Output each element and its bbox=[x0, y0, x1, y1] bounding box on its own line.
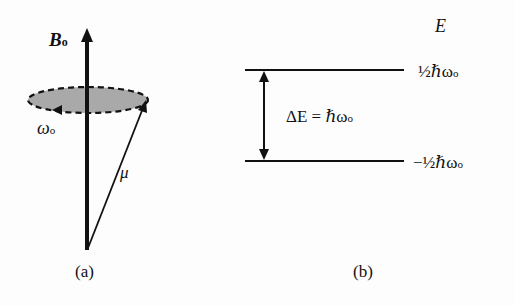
diagram-canvas: Bo ωo μ (a) E ½ℏωo −½ℏωo ΔE = ℏωo (b) bbox=[0, 0, 515, 306]
field-arrow-b0 bbox=[81, 28, 93, 250]
magnetic-moment-arrow bbox=[88, 100, 147, 248]
lower-level-label: −½ℏωo bbox=[413, 152, 463, 173]
magnetic-moment-label: μ bbox=[120, 163, 129, 183]
precession-frequency-label: ωo bbox=[37, 118, 55, 139]
energy-gap-arrow bbox=[259, 71, 269, 160]
energy-gap-label: ΔE = ℏωo bbox=[286, 106, 353, 127]
upper-level-label: ½ℏωo bbox=[418, 61, 458, 82]
caption-a: (a) bbox=[75, 262, 94, 282]
energy-axis-label: E bbox=[435, 16, 446, 37]
caption-b: (b) bbox=[353, 262, 373, 282]
field-label-b0: Bo bbox=[49, 29, 68, 51]
